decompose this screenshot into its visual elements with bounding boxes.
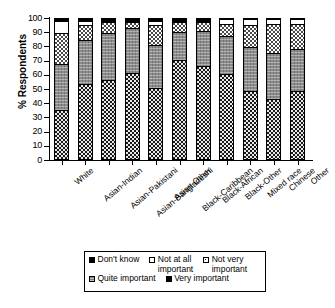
x-tick-mark bbox=[109, 161, 110, 165]
y-tick-value: 70 bbox=[20, 56, 42, 65]
x-tick-mark bbox=[62, 161, 63, 165]
bar-segment-not-very-important bbox=[102, 23, 115, 34]
bar-segment-quite-important bbox=[220, 37, 233, 75]
y-tick-value: 0 bbox=[20, 156, 42, 165]
legend-entry-not-at-all-important[interactable]: Not at all important bbox=[149, 255, 193, 274]
bar-segment-very-important bbox=[220, 75, 233, 159]
bar-segment-not-very-important bbox=[173, 23, 186, 33]
bar-asian-bangladeshi[interactable] bbox=[125, 18, 140, 160]
y-tick-value: 60 bbox=[20, 70, 42, 79]
bar-chinese[interactable] bbox=[266, 18, 281, 160]
y-tick-label: 10 bbox=[18, 141, 42, 150]
y-tick-value: 20 bbox=[20, 127, 42, 136]
bar-segment-quite-important bbox=[79, 41, 92, 84]
legend-row-2: Quite important Very important bbox=[89, 274, 261, 284]
bar-segment-quite-important bbox=[291, 50, 304, 92]
bar-segment-quite-important bbox=[244, 48, 257, 91]
bar-segment-not-very-important bbox=[55, 34, 68, 65]
bar-segment-very-important bbox=[126, 74, 139, 159]
bar-segment-quite-important bbox=[102, 34, 115, 80]
x-tick-mark bbox=[250, 161, 251, 165]
bar-mixed-race[interactable] bbox=[243, 18, 258, 160]
bar-segment-very-important bbox=[197, 67, 210, 159]
legend-label-quite-important: Quite important bbox=[98, 274, 156, 284]
bar-segment-not-very-important bbox=[291, 25, 304, 50]
y-tick-mark bbox=[44, 117, 49, 118]
y-tick-label: 0 bbox=[18, 156, 42, 165]
y-tick-label: 20 bbox=[18, 127, 42, 136]
bar-segment-very-important bbox=[149, 89, 162, 159]
y-tick-label: 40 bbox=[18, 99, 42, 108]
bar-segment-very-important bbox=[244, 92, 257, 159]
y-tick-mark bbox=[44, 103, 49, 104]
x-tick-mark bbox=[180, 161, 181, 165]
x-tick-mark bbox=[298, 161, 299, 165]
bar-segment-quite-important bbox=[197, 32, 210, 67]
legend-entry-quite-important[interactable]: Quite important bbox=[89, 274, 156, 284]
y-tick-value: 30 bbox=[20, 113, 42, 122]
bar-segment-not-very-important bbox=[197, 23, 210, 31]
y-tick-mark bbox=[44, 89, 49, 90]
x-tick-mark bbox=[132, 161, 133, 165]
bar-segment-not-very-important bbox=[267, 25, 280, 54]
bar-segment-quite-important bbox=[267, 54, 280, 100]
y-tick-value: 90 bbox=[20, 28, 42, 37]
bar-segment-quite-important bbox=[126, 29, 139, 74]
x-tick-mark bbox=[203, 161, 204, 165]
legend-swatch-dont-know-icon bbox=[89, 257, 95, 263]
bar-segment-very-important bbox=[291, 92, 304, 159]
legend-row-1: Don't know Not at all important Not very… bbox=[89, 255, 261, 274]
bar-segment-quite-important bbox=[173, 33, 186, 61]
legend-swatch-very-important-icon bbox=[166, 276, 172, 282]
y-tick-value: 40 bbox=[20, 99, 42, 108]
bar-white[interactable] bbox=[54, 18, 69, 160]
y-tick-mark bbox=[44, 75, 49, 76]
bar-segment-not-at-all-important bbox=[55, 22, 68, 35]
bar-segment-quite-important bbox=[55, 65, 68, 111]
y-tick-label: 70 bbox=[18, 56, 42, 65]
legend-label-very-important: Very important bbox=[174, 274, 229, 284]
bar-segment-very-important bbox=[79, 85, 92, 159]
bar-black-other[interactable] bbox=[219, 18, 234, 160]
legend-label-not-very-important: Not very important bbox=[212, 255, 247, 274]
y-tick-mark bbox=[44, 18, 49, 19]
y-tick-mark bbox=[44, 132, 49, 133]
y-tick-label: 30 bbox=[18, 113, 42, 122]
y-tick-value: 80 bbox=[20, 42, 42, 51]
legend-entry-dont-know[interactable]: Don't know bbox=[89, 255, 139, 265]
y-tick-value: 10 bbox=[20, 141, 42, 150]
bar-asian-pakistani[interactable] bbox=[101, 18, 116, 160]
x-tick-mark bbox=[274, 161, 275, 165]
bar-asian-other[interactable] bbox=[148, 18, 163, 160]
y-tick-mark bbox=[44, 160, 49, 161]
y-axis-ticks: 0102030405060708090100 bbox=[0, 0, 49, 308]
bar-segment-quite-important bbox=[149, 46, 162, 89]
y-tick-mark bbox=[44, 61, 49, 62]
bar-segment-very-important bbox=[55, 111, 68, 159]
y-tick-mark bbox=[44, 32, 49, 33]
x-tick-mark bbox=[85, 161, 86, 165]
bar-asian-indian[interactable] bbox=[78, 18, 93, 160]
y-tick-label: 50 bbox=[18, 85, 42, 94]
legend: Don't know Not at all important Not very… bbox=[84, 251, 266, 292]
y-tick-label: 60 bbox=[18, 70, 42, 79]
bar-black-african[interactable] bbox=[196, 18, 211, 160]
legend-entry-not-very-important[interactable]: Not very important bbox=[203, 255, 247, 274]
y-tick-label: 90 bbox=[18, 28, 42, 37]
stacked-bar-chart: % Respondents 0102030405060708090100 Whi… bbox=[0, 0, 335, 308]
bar-segment-very-important bbox=[102, 81, 115, 159]
bar-black-caribbean[interactable] bbox=[172, 18, 187, 160]
legend-entry-very-important[interactable]: Very important bbox=[166, 274, 229, 284]
x-label-white: White bbox=[73, 166, 95, 187]
legend-label-dont-know: Don't know bbox=[98, 255, 140, 265]
legend-swatch-not-at-all-important-icon bbox=[149, 257, 155, 263]
bar-other[interactable] bbox=[290, 18, 305, 160]
x-tick-mark bbox=[227, 161, 228, 165]
legend-label-not-at-all-important: Not at all important bbox=[158, 255, 193, 274]
bar-segment-very-important bbox=[267, 100, 280, 159]
y-tick-value: 100 bbox=[20, 14, 42, 23]
plot-area bbox=[50, 18, 312, 160]
y-tick-mark bbox=[44, 46, 49, 47]
legend-swatch-not-very-important-icon bbox=[203, 257, 209, 263]
bar-segment-not-very-important bbox=[149, 26, 162, 46]
